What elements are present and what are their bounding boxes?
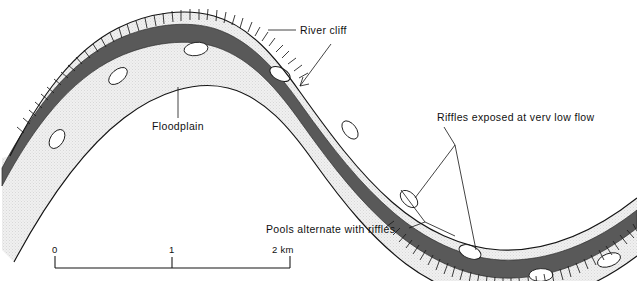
leader-river-cliff-arrow: [300, 44, 331, 86]
scale-bar-rule: [55, 256, 290, 268]
scale-tick-0: 0: [52, 244, 58, 255]
river-meander-diagram: River cliff Floodplain Riffles exposed a…: [0, 0, 637, 281]
riffle-ellipse: [397, 187, 421, 211]
label-riffles: Riffles exposed at verv low flow: [437, 111, 595, 123]
leader-riffles-2: [455, 145, 476, 250]
scale-tick-2: 2 km: [272, 244, 294, 255]
label-floodplain: Floodplain: [152, 120, 204, 132]
label-river-cliff: River cliff: [300, 24, 347, 36]
floodplain-area: [2, 42, 637, 281]
label-pools: Pools alternate with riffles: [266, 223, 395, 235]
meander-figure: River cliff Floodplain Riffles exposed a…: [0, 0, 637, 281]
scale-bar: 0 1 2 km: [52, 244, 294, 268]
scale-tick-1: 1: [169, 244, 175, 255]
riffle-ellipse: [339, 118, 362, 142]
leader-riffles: [415, 127, 455, 198]
